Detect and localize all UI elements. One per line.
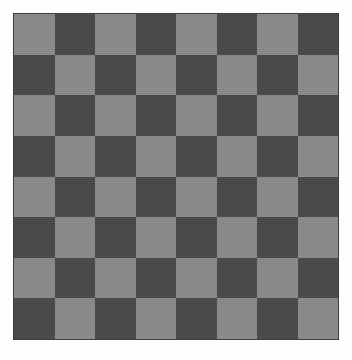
board-square [55, 95, 96, 136]
board-square [55, 217, 96, 258]
board-square [95, 177, 136, 218]
board-square [176, 298, 217, 339]
board-square [217, 55, 258, 96]
checkerboard-frame [13, 13, 339, 340]
checkerboard-grid [14, 14, 338, 339]
board-square [14, 136, 55, 177]
board-square [298, 95, 339, 136]
board-square [298, 177, 339, 218]
board-square [14, 14, 55, 55]
board-square [95, 298, 136, 339]
board-square [217, 177, 258, 218]
board-square [55, 136, 96, 177]
board-square [55, 55, 96, 96]
board-square [95, 136, 136, 177]
board-square [298, 55, 339, 96]
board-square [176, 55, 217, 96]
board-square [136, 217, 177, 258]
board-square [176, 136, 217, 177]
board-square [136, 298, 177, 339]
board-square [298, 136, 339, 177]
board-square [95, 14, 136, 55]
board-square [257, 14, 298, 55]
board-square [14, 177, 55, 218]
board-square [217, 258, 258, 299]
board-square [55, 14, 96, 55]
board-square [14, 298, 55, 339]
board-square [55, 298, 96, 339]
board-square [55, 258, 96, 299]
board-square [217, 136, 258, 177]
board-square [298, 217, 339, 258]
board-square [217, 217, 258, 258]
board-square [257, 136, 298, 177]
board-square [176, 258, 217, 299]
board-square [257, 95, 298, 136]
image-canvas [0, 0, 352, 360]
board-square [95, 217, 136, 258]
board-square [95, 55, 136, 96]
board-square [136, 177, 177, 218]
board-square [257, 298, 298, 339]
board-square [136, 136, 177, 177]
board-square [95, 95, 136, 136]
board-square [176, 217, 217, 258]
board-square [257, 55, 298, 96]
board-square [176, 95, 217, 136]
board-square [14, 55, 55, 96]
board-square [298, 298, 339, 339]
board-square [217, 14, 258, 55]
board-square [257, 258, 298, 299]
board-square [257, 217, 298, 258]
board-square [95, 258, 136, 299]
board-square [257, 177, 298, 218]
board-square [14, 258, 55, 299]
board-square [298, 14, 339, 55]
board-square [136, 258, 177, 299]
board-square [14, 95, 55, 136]
board-square [217, 298, 258, 339]
board-square [298, 258, 339, 299]
board-square [136, 55, 177, 96]
board-square [55, 177, 96, 218]
board-square [217, 95, 258, 136]
board-square [176, 177, 217, 218]
board-square [136, 95, 177, 136]
board-square [176, 14, 217, 55]
board-square [14, 217, 55, 258]
board-square [136, 14, 177, 55]
